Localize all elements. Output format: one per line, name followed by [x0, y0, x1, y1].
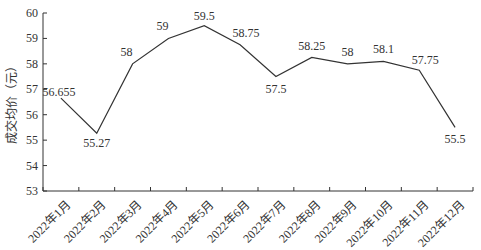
- data-label: 57.75: [412, 53, 439, 67]
- data-label: 58.25: [298, 39, 325, 53]
- data-label: 59.5: [194, 9, 215, 23]
- y-tick-label: 59: [26, 31, 38, 45]
- data-label: 57.5: [265, 82, 286, 96]
- line-chart: 5354555657585960 2022年1月2022年2月2022年3月20…: [0, 0, 481, 250]
- y-axis-label: 成交均价（元）: [4, 60, 19, 144]
- x-axis: 2022年1月2022年2月2022年3月2022年4月2022年5月2022年…: [25, 187, 473, 250]
- y-axis: 5354555657585960: [26, 6, 47, 198]
- data-label: 58.1: [373, 42, 394, 56]
- y-tick-label: 57: [26, 82, 38, 96]
- series-line: [61, 26, 455, 134]
- data-label: 56.655: [42, 85, 75, 99]
- y-tick-label: 60: [26, 6, 38, 20]
- data-label: 55.5: [445, 132, 466, 146]
- data-series: 56.65555.27585959.558.7557.558.255858.15…: [42, 9, 465, 151]
- y-tick-label: 58: [26, 57, 38, 71]
- data-label: 58.75: [233, 26, 260, 40]
- data-label: 59: [156, 19, 168, 33]
- y-tick-label: 56: [26, 108, 38, 122]
- data-label: 55.27: [83, 136, 110, 150]
- data-label: 58: [342, 45, 354, 59]
- data-label: 58: [121, 45, 133, 59]
- y-tick-label: 53: [26, 184, 38, 198]
- y-tick-label: 55: [26, 133, 38, 147]
- y-tick-label: 54: [26, 159, 38, 173]
